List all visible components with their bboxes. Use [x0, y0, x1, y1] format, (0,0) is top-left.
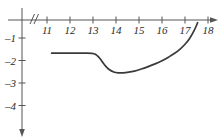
- y-axis-arrow-icon: [19, 129, 25, 137]
- axis-break-icon: [30, 14, 39, 24]
- x-tick-label: 16: [157, 25, 168, 36]
- y-tick-label: –4: [0, 100, 16, 111]
- y-tick-label: –2: [0, 55, 16, 66]
- x-axis-arrow-icon: [210, 17, 218, 23]
- x-tick-label: 11: [42, 25, 52, 36]
- x-tick-label: 13: [88, 25, 99, 36]
- x-tick-label: 15: [134, 25, 145, 36]
- y-tick-label: –1: [0, 33, 16, 44]
- x-tick-label: 17: [180, 25, 191, 36]
- x-tick-label: 14: [111, 25, 122, 36]
- y-tick-label: –3: [0, 78, 16, 89]
- x-tick-label: 18: [203, 25, 214, 36]
- chart-figure: 1112131415161718 –1–2–3–4: [0, 0, 220, 140]
- x-tick-label: 12: [65, 25, 76, 36]
- plot-area: [0, 0, 220, 140]
